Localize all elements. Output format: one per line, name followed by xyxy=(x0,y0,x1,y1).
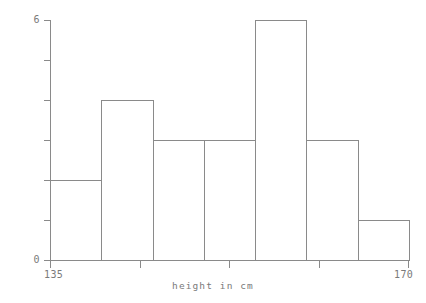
histogram-bar xyxy=(255,20,307,261)
histogram-bar xyxy=(204,140,256,261)
histogram-bar xyxy=(358,220,410,261)
histogram-bar xyxy=(153,140,205,261)
histogram-chart: 6 0 135 170 height in cm xyxy=(0,0,426,303)
histogram-bar xyxy=(50,180,102,261)
bars-layer xyxy=(0,0,426,303)
histogram-bar xyxy=(101,100,154,261)
histogram-bar xyxy=(306,140,359,261)
